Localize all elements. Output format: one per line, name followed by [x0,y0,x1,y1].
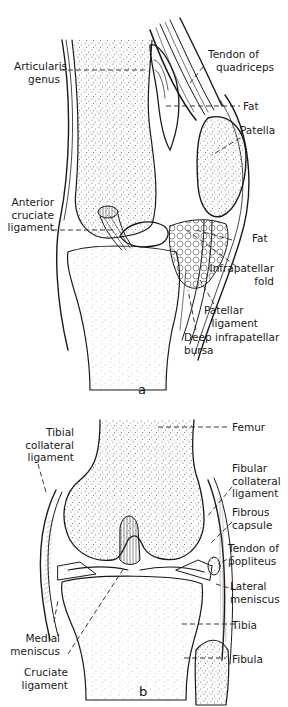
label-fibrous-capsule: Fibrous capsule [232,506,272,531]
label-patellar-ligament: Patellar ligament [204,304,258,329]
label-fat-upper: Fat [243,100,259,113]
label-tibial-collateral-ligament: Tibial collateral ligament [14,426,74,464]
patella-shape [197,117,246,217]
label-fibular-collateral-ligament: Fibular collateral ligament [232,462,281,500]
label-fat-lower: Fat [252,232,268,245]
label-tendon-of-popliteus: Tendon of popliteus [228,542,279,567]
label-cruciate-ligament: Cruciate ligament [8,666,68,691]
panel-letter-a: a [138,382,146,397]
label-medial-meniscus: Medial meniscus [8,632,60,657]
label-infrapatellar-fold: Infrapatellar fold [208,262,274,287]
panel-letter-b: b [139,684,147,699]
lateral-meniscus [176,560,212,580]
label-tibia: Tibia [232,619,257,632]
label-deep-infrapatellar-bursa: Deep infrapatellar bursa [184,331,279,356]
tibia-a [67,246,179,390]
label-articularis-genus: Articularis genus [14,60,60,85]
fibula [195,640,229,705]
tibia-b [62,576,203,700]
label-tendon-of-quadriceps: Tendon of quadriceps [208,48,274,73]
label-fibula: Fibula [232,653,263,666]
label-femur: Femur [232,421,265,434]
label-patella: Patella [240,124,275,137]
label-lateral-meniscus: Lateral meniscus [230,580,280,605]
label-anterior-cruciate-ligament: Anterior cruciate ligament [4,196,54,234]
